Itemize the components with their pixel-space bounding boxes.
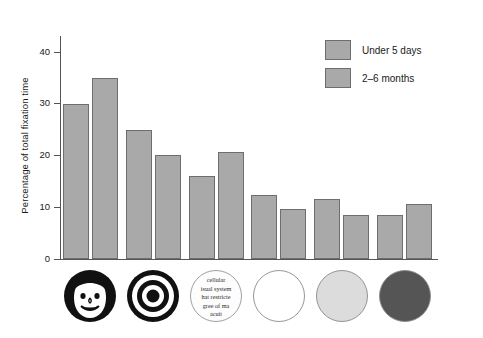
bar-yellow-2-6-months bbox=[343, 215, 369, 259]
bar-white-under-5-days bbox=[251, 195, 277, 259]
legend-item-under-5-days: Under 5 days bbox=[325, 38, 421, 62]
red-circle-stimulus bbox=[377, 268, 433, 324]
bar-red-2-6-months bbox=[406, 204, 432, 259]
legend: Under 5 days2–6 months bbox=[325, 38, 421, 94]
bar-face-2-6-months bbox=[92, 78, 118, 260]
svg-text:cellular: cellular bbox=[207, 276, 226, 283]
bar-white-2-6-months bbox=[280, 209, 306, 259]
newsprint-stimulus: cellularisual systemhat restrictegree of… bbox=[188, 268, 244, 324]
svg-text:isual system: isual system bbox=[201, 285, 232, 292]
bar-newsprint-under-5-days bbox=[189, 176, 215, 259]
yellow-circle-stimulus-icon bbox=[314, 268, 370, 324]
bar-group-white bbox=[251, 36, 306, 259]
stimuli-row: cellularisual systemhat restrictegree of… bbox=[61, 268, 438, 330]
white-circle-stimulus-icon bbox=[251, 268, 307, 324]
svg-text:gree of ma: gree of ma bbox=[203, 302, 230, 309]
bar-bullseye-2-6-months bbox=[155, 155, 181, 259]
y-tick-label: 0 bbox=[2, 254, 50, 264]
legend-label: Under 5 days bbox=[362, 45, 421, 56]
y-tick-label-wrap: 10 bbox=[0, 202, 60, 212]
y-tick-label-wrap: 30 bbox=[0, 98, 60, 108]
y-tick-label-wrap: 20 bbox=[0, 150, 60, 160]
legend-swatch bbox=[325, 68, 351, 88]
y-axis-title: Percentage of total fixation time bbox=[19, 36, 30, 256]
bar-face-under-5-days bbox=[63, 104, 89, 259]
legend-label: 2–6 months bbox=[362, 73, 414, 84]
x-axis-line bbox=[60, 259, 438, 260]
bar-red-under-5-days bbox=[377, 215, 403, 259]
svg-text:hat restricte: hat restricte bbox=[202, 293, 231, 300]
newsprint-stimulus-icon: cellularisual systemhat restrictegree of… bbox=[188, 268, 244, 324]
bar-group-face bbox=[63, 36, 118, 259]
yellow-circle-stimulus bbox=[314, 268, 370, 324]
bar-bullseye-under-5-days bbox=[126, 130, 152, 259]
svg-text:acuit: acuit bbox=[210, 310, 222, 317]
bar-group-newsprint bbox=[189, 36, 244, 259]
legend-swatch bbox=[325, 40, 351, 60]
bar-newsprint-2-6-months bbox=[218, 152, 244, 259]
face-stimulus-icon bbox=[62, 268, 118, 324]
bullseye-stimulus-icon bbox=[125, 268, 181, 324]
y-tick-label-wrap: 40 bbox=[0, 47, 60, 57]
bar-group-bullseye bbox=[126, 36, 181, 259]
white-circle-stimulus bbox=[251, 268, 307, 324]
legend-item-2-6-months: 2–6 months bbox=[325, 66, 421, 90]
y-tick-label-wrap: 0 bbox=[0, 254, 60, 264]
bar-chart: 010203040 Percentage of total fixation t… bbox=[0, 0, 483, 338]
red-circle-stimulus-icon bbox=[377, 268, 433, 324]
bar-yellow-under-5-days bbox=[314, 199, 340, 259]
bullseye-stimulus bbox=[125, 268, 181, 324]
face-stimulus bbox=[62, 268, 118, 324]
